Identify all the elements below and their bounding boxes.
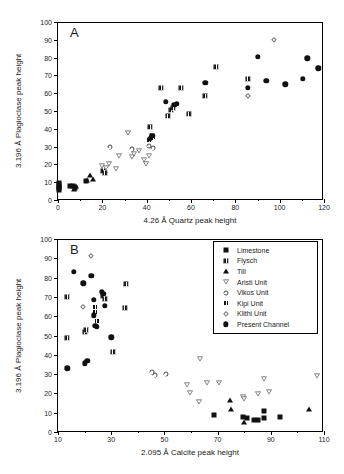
x-tick-minor xyxy=(125,199,126,201)
plot-right-border-b xyxy=(322,239,323,431)
y-tick-label: 100 xyxy=(40,236,52,243)
y-tick xyxy=(54,239,58,240)
x-tick-minor xyxy=(258,199,259,201)
y-tick-label: 90 xyxy=(44,255,52,262)
y-tick xyxy=(54,258,58,259)
y-tick-label: 80 xyxy=(44,274,52,281)
x-tick xyxy=(111,431,112,435)
legend-item-limestone: Limestone xyxy=(214,245,317,256)
y-tick xyxy=(54,278,58,279)
legend-item-klithi-unit: Klithi Unit xyxy=(214,309,317,320)
plot-top-border-b xyxy=(58,239,323,240)
legend-item-flysch: Flysch xyxy=(214,256,317,267)
y-tick-label: 90 xyxy=(44,36,52,43)
plot-top-border-a xyxy=(58,22,323,23)
y-tick xyxy=(54,374,58,375)
legend-marker-crossed-square-small-icon xyxy=(219,298,233,308)
y-tick-label: 20 xyxy=(44,390,52,397)
y-tick xyxy=(54,297,58,298)
y-tick-label: 30 xyxy=(44,371,52,378)
legend-item-till: Till xyxy=(214,266,317,277)
x-tick-minor xyxy=(302,199,303,201)
y-tick-label: 0 xyxy=(48,197,52,204)
legend-item-label: Flysch xyxy=(233,257,257,264)
x-tick-label: 50 xyxy=(160,436,168,443)
y-tick-label: 20 xyxy=(44,161,52,168)
y-tick xyxy=(54,355,58,356)
legend-marker-filled-circle-icon xyxy=(219,319,233,329)
x-tick-minor xyxy=(80,199,81,201)
x-tick xyxy=(218,431,219,435)
x-axis-title-b: 2.095 Å Calcite peak height xyxy=(57,448,323,457)
y-tick-label: 50 xyxy=(44,108,52,115)
x-tick-label: 100 xyxy=(274,204,286,211)
y-tick-label: 70 xyxy=(44,72,52,79)
y-tick-label: 100 xyxy=(40,19,52,26)
legend-item-label: Aristi Unit xyxy=(233,279,267,286)
y-tick-label: 40 xyxy=(44,125,52,132)
legend-marker-filled-square-icon xyxy=(219,245,233,255)
y-tick xyxy=(54,413,58,414)
y-tick xyxy=(54,75,58,76)
y-tick-label: 30 xyxy=(44,143,52,150)
legend-item-label: Till xyxy=(233,268,246,275)
legend-marker-open-diamond-icon xyxy=(219,309,233,319)
legend-marker-open-circle-icon xyxy=(219,288,233,298)
y-tick-label: 10 xyxy=(44,179,52,186)
legend-item-label: Klithi Unit xyxy=(233,310,267,317)
y-tick-label: 10 xyxy=(44,409,52,416)
legend-marker-crossed-square-icon xyxy=(219,256,233,266)
y-tick xyxy=(54,147,58,148)
x-tick-minor xyxy=(191,431,192,433)
x-tick-minor xyxy=(244,431,245,433)
panel-letter-a: A xyxy=(70,25,79,40)
x-tick xyxy=(147,199,148,203)
x-tick xyxy=(58,199,59,203)
y-tick-label: 0 xyxy=(48,429,52,436)
x-tick-label: 110 xyxy=(318,436,329,443)
legend-marker-filled-triangle-up-icon xyxy=(219,266,233,276)
y-tick xyxy=(54,393,58,394)
x-tick-minor xyxy=(169,199,170,201)
legend-marker-open-triangle-down-icon xyxy=(219,277,233,287)
y-tick xyxy=(54,22,58,23)
x-tick xyxy=(164,431,165,435)
legend-item-vikos-unit: Vikos Unit xyxy=(214,287,317,298)
legend-item-label: Limestone xyxy=(233,247,269,254)
x-tick xyxy=(235,199,236,203)
x-tick xyxy=(102,199,103,203)
x-tick-label: 0 xyxy=(56,204,60,211)
y-tick xyxy=(54,111,58,112)
x-tick-label: 20 xyxy=(98,204,106,211)
x-tick-minor xyxy=(138,431,139,433)
x-tick xyxy=(58,431,59,435)
y-axis-title-a: 3.196 Å Plagioclase peak height xyxy=(14,54,23,168)
y-axis-title-b: 3.196 Å Plagioclase peak height xyxy=(14,278,23,392)
y-tick xyxy=(54,40,58,41)
y-tick-label: 60 xyxy=(44,90,52,97)
x-tick xyxy=(324,199,325,203)
x-tick-minor xyxy=(297,431,298,433)
legend-item-aristi-unit: Aristi Unit xyxy=(214,277,317,288)
x-tick-label: 80 xyxy=(231,204,239,211)
x-tick xyxy=(191,199,192,203)
legend-item-kipi-unit: Kipi Unit xyxy=(214,298,317,309)
x-tick-label: 60 xyxy=(187,204,195,211)
y-tick xyxy=(54,336,58,337)
y-tick-label: 40 xyxy=(44,351,52,358)
legend-item-present-channel: Present Channel xyxy=(214,319,317,330)
y-tick-label: 80 xyxy=(44,54,52,61)
panel-b: 01020304050607080901001030507090110 B 2.… xyxy=(0,237,344,474)
legend-item-label: Kipi Unit xyxy=(233,300,263,307)
legend-item-label: Present Channel xyxy=(233,321,289,328)
panel-a: 0102030405060708090100020406080100120 A … xyxy=(0,0,344,237)
two-panel-scatter-figure: 0102030405060708090100020406080100120 A … xyxy=(0,0,344,474)
x-tick-label: 10 xyxy=(54,436,62,443)
y-tick xyxy=(54,164,58,165)
y-tick-label: 70 xyxy=(44,293,52,300)
x-tick-label: 90 xyxy=(267,436,275,443)
legend-item-label: Vikos Unit xyxy=(233,289,268,296)
x-tick-minor xyxy=(85,431,86,433)
y-tick-label: 60 xyxy=(44,313,52,320)
legend: LimestoneFlyschTillAristi UnitVikos Unit… xyxy=(213,241,318,334)
